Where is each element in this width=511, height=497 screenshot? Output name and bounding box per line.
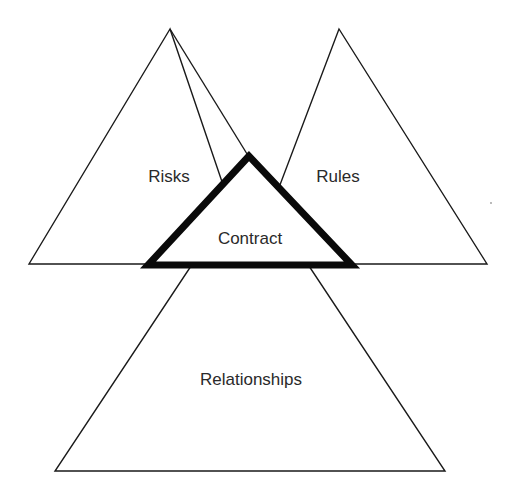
contract-diagram: Risks Rules Contract Relationships — [0, 0, 511, 497]
relationships-label: Relationships — [200, 370, 302, 389]
contract-label: Contract — [218, 229, 283, 248]
risks-label: Risks — [148, 167, 190, 186]
rules-label: Rules — [316, 167, 359, 186]
relationships-trapezoid — [55, 266, 445, 471]
speck-mark — [490, 202, 492, 204]
